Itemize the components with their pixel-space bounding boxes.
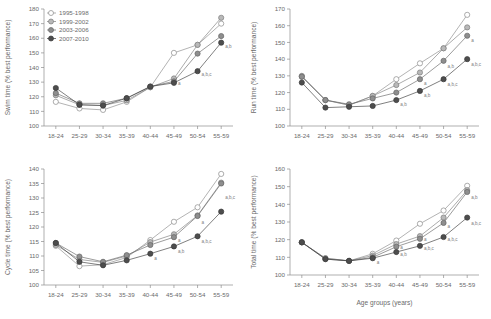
y-tick-label: 105 <box>29 267 40 274</box>
significance-annotation: a,b,c <box>225 195 236 200</box>
significance-annotation: a,b,c <box>471 62 482 67</box>
significance-annotation: a,b <box>400 102 407 107</box>
chart-panel-bottom-left: 10010511011512012513013514018-2425-2930-… <box>0 160 245 319</box>
y-tick-label: 120 <box>29 223 40 230</box>
y-tick-label: 140 <box>275 201 286 208</box>
chart-panel-top-right: 10011012013014015016017018-2425-2930-343… <box>246 0 491 160</box>
significance-annotation: a <box>400 245 403 250</box>
y-tick-label: 110 <box>275 254 285 261</box>
x-tick-label: 18-24 <box>48 132 64 139</box>
chart-panel-top-left: 10011012013014015016017018018-2425-2930-… <box>0 0 245 160</box>
x-tick-label: 55-59 <box>459 132 475 139</box>
y-tick-label: 110 <box>275 105 285 112</box>
significance-annotation: a,b <box>400 252 407 257</box>
x-tick-label: 18-24 <box>294 132 310 139</box>
x-tick-label: 50-54 <box>436 132 452 139</box>
y-tick-label: 160 <box>275 165 286 172</box>
y-tick-label: 170 <box>275 5 286 12</box>
y-tick-label: 140 <box>29 64 40 71</box>
y-axis-title: Run time (% best performance) <box>250 22 258 114</box>
chart-panel-bottom-right: 10011012013014015016018-2425-2930-3435-3… <box>246 160 491 319</box>
y-tick-label: 100 <box>29 281 40 288</box>
x-tick-label: 45-49 <box>412 281 428 288</box>
x-tick-label: 40-44 <box>388 281 404 288</box>
x-tick-label: 40-44 <box>388 132 404 139</box>
x-tick-label: 45-49 <box>166 132 182 139</box>
y-tick-label: 150 <box>29 49 40 56</box>
y-tick-label: 120 <box>29 93 40 100</box>
series-2003-2006 <box>299 33 470 107</box>
significance-annotation: a,b <box>448 64 455 69</box>
x-tick-label: 40-44 <box>142 132 158 139</box>
y-tick-label: 100 <box>275 122 286 129</box>
significance-annotation: a <box>154 256 157 261</box>
legend-label: 1999-2002 <box>59 18 89 25</box>
significance-annotation: a <box>178 81 181 86</box>
y-tick-label: 130 <box>29 78 40 85</box>
y-tick-label: 160 <box>29 34 40 41</box>
x-tick-label: 30-34 <box>95 132 111 139</box>
x-tick-label: 35-39 <box>119 132 135 139</box>
legend-label: 2003-2006 <box>59 26 89 33</box>
legend-label: 2007-2010 <box>59 35 89 42</box>
significance-annotation: a,b <box>178 249 185 254</box>
x-tick-label: 45-49 <box>166 291 182 298</box>
x-tick-label: 35-39 <box>365 132 381 139</box>
legend-label: 1995-1998 <box>59 9 89 16</box>
x-tick-label: 25-29 <box>72 291 88 298</box>
y-tick-label: 120 <box>275 89 286 96</box>
x-tick-label: 50-54 <box>190 291 206 298</box>
x-tick-label: 25-29 <box>72 132 88 139</box>
significance-annotation: a,b,c <box>448 237 459 242</box>
y-tick-label: 130 <box>29 194 40 201</box>
y-tick-label: 150 <box>275 183 286 190</box>
x-tick-label: 25-29 <box>318 132 334 139</box>
x-tick-label: 55-59 <box>213 132 229 139</box>
y-tick-label: 130 <box>275 218 286 225</box>
y-axis-title: Total time (% best performance) <box>250 175 258 268</box>
y-axis-title: Cycle time (% best performance) <box>4 179 12 275</box>
x-tick-label: 55-59 <box>459 281 475 288</box>
x-tick-label: 50-54 <box>436 281 452 288</box>
significance-annotation: a <box>377 260 380 265</box>
y-tick-label: 180 <box>29 5 40 12</box>
series-2007-2010 <box>53 40 224 108</box>
figure-container: 10011012013014015016017018018-2425-2930-… <box>0 0 491 319</box>
y-tick-label: 110 <box>29 108 39 115</box>
y-tick-label: 160 <box>275 22 286 29</box>
y-tick-label: 125 <box>29 209 40 216</box>
significance-annotation: a <box>448 224 451 229</box>
significance-annotation: a,b <box>424 93 431 98</box>
x-axis-title: Age groups (years) <box>356 299 412 307</box>
y-tick-label: 100 <box>275 271 286 278</box>
significance-annotation: a <box>178 238 181 243</box>
significance-annotation: a,b,c <box>424 246 435 251</box>
x-tick-label: 30-34 <box>95 291 111 298</box>
x-tick-label: 40-44 <box>142 291 158 298</box>
series-1999-2002 <box>53 180 224 265</box>
significance-annotation: a <box>471 38 474 43</box>
x-tick-label: 18-24 <box>294 281 310 288</box>
x-tick-label: 45-49 <box>412 132 428 139</box>
significance-annotation: a,b,c <box>471 221 482 226</box>
y-tick-label: 140 <box>29 165 40 172</box>
y-tick-label: 120 <box>275 236 286 243</box>
series-2003-2006 <box>53 181 224 265</box>
x-tick-label: 35-39 <box>365 281 381 288</box>
significance-annotation: a,b <box>471 195 478 200</box>
significance-annotation: a,b,c <box>448 82 459 87</box>
significance-annotation: a,b <box>225 44 232 49</box>
y-tick-label: 135 <box>29 180 40 187</box>
y-tick-label: 150 <box>275 39 286 46</box>
chart-legend: 1995-19981999-20022003-20062007-2010 <box>47 9 89 42</box>
significance-annotation: a <box>202 220 205 225</box>
y-tick-label: 140 <box>275 55 286 62</box>
y-tick-label: 110 <box>29 252 39 259</box>
x-tick-label: 25-29 <box>318 281 334 288</box>
y-tick-label: 100 <box>29 122 40 129</box>
y-axis-title: Swim time (% best performance) <box>4 20 12 116</box>
significance-annotation: a,b,c <box>202 72 213 77</box>
y-tick-label: 115 <box>29 238 39 245</box>
series-2003-2006 <box>299 189 470 263</box>
y-tick-label: 170 <box>29 20 40 27</box>
